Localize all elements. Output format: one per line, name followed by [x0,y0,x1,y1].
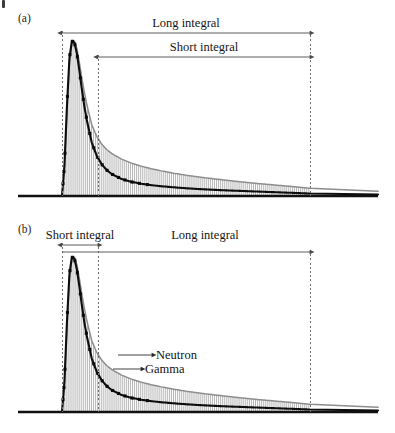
gamma-sample-marker [79,76,82,79]
gamma-sample-marker [111,173,114,176]
panel-a-short-integral-label: Short integral [170,40,239,54]
gamma-sample-marker [85,332,88,335]
gamma-sample-marker [85,116,88,119]
gamma-sample-marker [68,269,71,272]
gamma-sample-marker [62,170,65,173]
gamma-sample-marker [130,396,133,399]
gamma-sample-marker [130,180,133,183]
gamma-sample-marker [76,271,79,274]
panel-a-tag: (a) [18,12,31,25]
panel-a-long-integral-label: Long integral [152,16,220,30]
gamma-sample-marker [63,368,66,371]
gamma-sample-marker [117,176,120,179]
gamma-sample-marker [88,348,91,351]
gamma-sample-marker [71,40,74,43]
gamma-sample-marker [101,163,104,166]
gamma-sample-marker [66,95,69,98]
gamma-sample-marker [63,152,66,155]
gamma-sample-marker [76,55,79,58]
gamma-sample-marker [123,178,126,181]
gamma-sample-marker [138,398,141,401]
gamma-sample-marker [62,386,65,389]
neutron-label: Neutron [156,348,198,362]
gamma-sample-marker [71,256,74,259]
gamma-sample-marker [146,399,149,402]
gamma-sample-marker [82,314,85,317]
pulse-shape-figure: (a) Long integral Short integral (b) [0,0,395,433]
gamma-sample-marker [79,292,82,295]
gamma-sample-marker [73,259,76,262]
figure-root: (a) Long integral Short integral (b) [0,0,395,433]
gamma-sample-marker [101,379,104,382]
gamma-sample-marker [66,311,69,314]
gamma-sample-marker [117,392,120,395]
gamma-sample-marker [146,183,149,186]
panel-b-tag: (b) [18,223,32,236]
gamma-sample-marker [82,98,85,101]
gamma-sample-marker [123,394,126,397]
gamma-sample-marker [92,146,95,149]
gamma-sample-marker [73,43,76,46]
figure-background [0,0,395,433]
panel-b-short-integral-label: Short integral [46,228,115,242]
gamma-sample-marker [138,182,141,185]
panel-b-long-integral-label: Long integral [171,228,239,242]
scan-artifact-speck [2,0,5,8]
gamma-label: Gamma [145,362,185,376]
gamma-sample-marker [106,169,109,172]
gamma-sample-marker [111,389,114,392]
gamma-sample-marker [88,132,91,135]
gamma-sample-marker [92,362,95,365]
gamma-sample-marker [68,53,71,56]
gamma-sample-marker [106,385,109,388]
